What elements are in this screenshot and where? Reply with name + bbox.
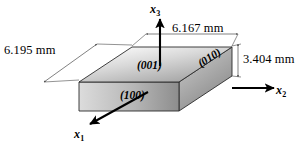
plane-label-100: (100) (120, 90, 145, 102)
axis-label-x2-subscript: 2 (282, 90, 286, 99)
axis-label-x1-subscript: 1 (80, 134, 84, 143)
plane-label-001: (001) (137, 60, 162, 72)
crystal-slab-figure: 6.195 mm 6.167 mm 3.404 mm (001) (100) (… (0, 0, 307, 149)
axis-label-x3: x3 (150, 3, 160, 15)
axis-label-x3-subscript: 3 (156, 9, 160, 18)
dimension-label-left: 6.195 mm (4, 44, 56, 57)
dimension-label-right: 3.404 mm (243, 53, 295, 66)
axis-label-x1: x1 (74, 128, 84, 140)
dimension-label-top: 6.167 mm (172, 22, 224, 35)
axis-label-x2: x2 (276, 84, 286, 96)
dimension-line-right (232, 44, 241, 77)
dimension-line-top (132, 34, 238, 46)
slab-drawing (0, 0, 307, 149)
